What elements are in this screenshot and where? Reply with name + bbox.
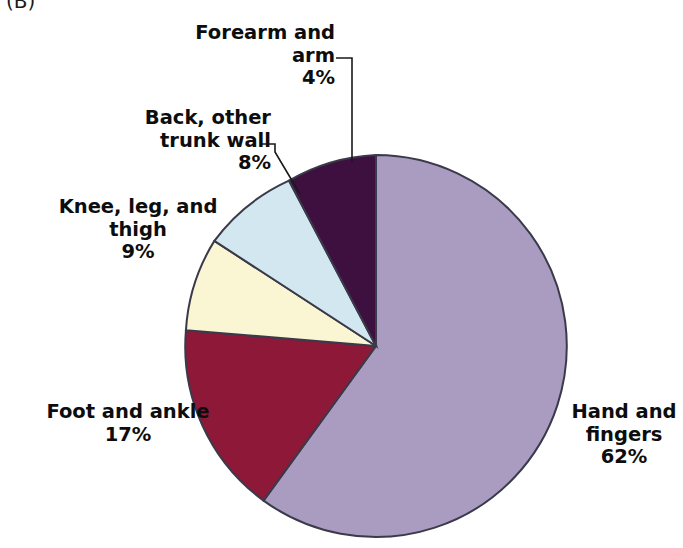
pie-label-knee-leg-and-thigh: Knee, leg, and thigh 9% <box>33 196 243 264</box>
pie-chart: Forearm and arm 4% Back, other trunk wal… <box>0 0 683 548</box>
leader-line-forearm-and-arm <box>336 58 352 162</box>
figure-panel: (B) Forearm and arm 4% Back, other trunk… <box>0 0 683 548</box>
pie-label-forearm-and-arm: Forearm and arm 4% <box>105 22 335 90</box>
pie-label-hand-and-fingers: Hand and fingers 62% <box>568 401 680 469</box>
pie-label-foot-and-ankle: Foot and ankle 17% <box>24 401 232 446</box>
pie-label-back-other-trunk-wall: Back, other trunk wall 8% <box>41 107 271 175</box>
